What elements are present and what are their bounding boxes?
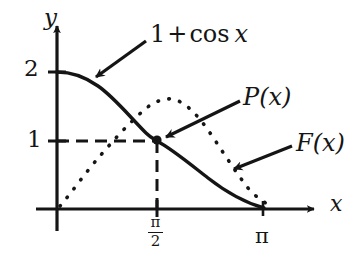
fraction-denominator: 2 xyxy=(151,234,161,250)
antiderivative-curve-F xyxy=(60,99,272,206)
cosine-label-arrow xyxy=(96,41,146,77)
cosine-label-plus: + xyxy=(165,20,189,48)
cosine-label-one: 1 xyxy=(150,20,165,48)
antiderivative-label-arrow xyxy=(234,146,292,169)
y-tick-label-1: 1 xyxy=(27,128,42,151)
y-axis-label: y xyxy=(44,6,57,29)
math-figure: y x 2 1 π 2 π 1+cos x P(x) F(x) xyxy=(0,0,364,271)
point-label: P(x) xyxy=(243,85,291,109)
antiderivative-label: F(x) xyxy=(296,131,345,155)
x-tick-label-pi-over-2: π 2 xyxy=(148,215,163,250)
cosine-label-cos: cos xyxy=(189,20,229,48)
x-axis-label: x xyxy=(330,193,342,215)
point-label-function: P xyxy=(243,83,259,111)
x-tick-label-pi: π xyxy=(255,226,269,247)
cosine-curve-label: 1+cos x xyxy=(150,22,248,46)
point-P-marker xyxy=(152,135,161,144)
point-label-argument: (x) xyxy=(259,83,291,111)
point-label-arrow xyxy=(166,101,240,137)
cosine-label-variable: x xyxy=(234,20,248,48)
guide-lines-group xyxy=(57,141,157,209)
antiderivative-label-argument: (x) xyxy=(313,129,345,157)
axis-group xyxy=(36,26,314,231)
y-tick-label-2: 2 xyxy=(24,57,39,80)
fraction-numerator: π xyxy=(151,215,161,231)
antiderivative-label-function: F xyxy=(296,129,313,157)
